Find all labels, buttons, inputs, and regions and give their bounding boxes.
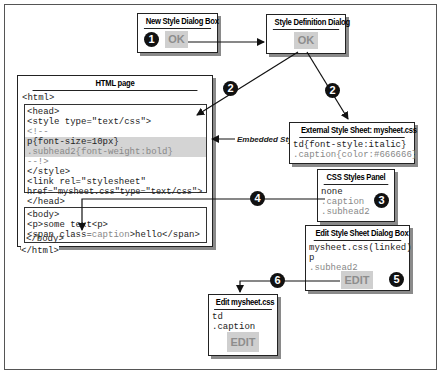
step-4-badge: 4 — [250, 191, 265, 206]
connector-arrows — [0, 0, 441, 375]
step-2-badge-right: 2 — [325, 83, 340, 98]
step-2-badge-left: 2 — [223, 81, 238, 96]
step-6-badge: 6 — [270, 273, 285, 288]
